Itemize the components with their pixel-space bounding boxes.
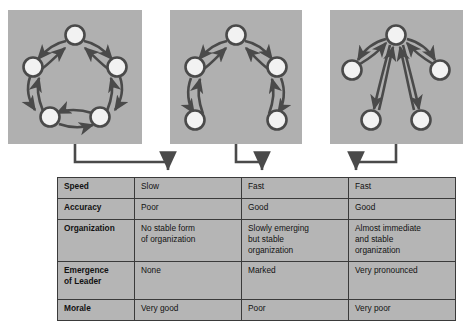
wheel-nodes (343, 26, 450, 130)
wheel-edges (358, 39, 435, 110)
network-comparison-table: Speed Slow Fast Fast Accuracy Poor Good … (57, 177, 456, 321)
circle-network-diagram (8, 10, 142, 144)
cell-text-line: of organization (141, 234, 235, 245)
row-header-speed: Speed (58, 178, 135, 199)
cell-organization-wheel: Almost immediate and stable organization (349, 220, 456, 262)
cell-text-line: organization (248, 245, 342, 256)
cell-speed-wheel: Fast (349, 178, 456, 199)
table-row: Accuracy Poor Good Good (58, 199, 456, 220)
cell-text-line: Almost immediate (355, 223, 449, 234)
chain-network-panel (170, 10, 302, 144)
connector-chain (236, 144, 262, 170)
row-header-morale: Morale (58, 300, 135, 321)
cell-accuracy-wheel: Good (349, 199, 456, 220)
row-header-line: Emergence (64, 265, 128, 276)
chain-edges (188, 41, 284, 114)
cell-morale-chain: Poor (242, 300, 349, 321)
cell-morale-wheel: Very poor (349, 300, 456, 321)
table-row: Morale Very good Poor Very poor (58, 300, 456, 321)
table-row: Organization No stable form of organizat… (58, 220, 456, 262)
cell-emergence-circle: None (135, 262, 242, 300)
row-header-accuracy: Accuracy (58, 199, 135, 220)
cell-morale-circle: Very good (135, 300, 242, 321)
cell-accuracy-circle: Poor (135, 199, 242, 220)
cell-accuracy-chain: Good (242, 199, 349, 220)
wheel-hub-node (387, 26, 406, 45)
circle-network-panel (8, 10, 142, 144)
table-row: Emergence of Leader None Marked Very pro… (58, 262, 456, 300)
cell-text-line: and stable (355, 234, 449, 245)
cell-text-line: Slowly emerging (248, 223, 342, 234)
cell-text-line: but stable (248, 234, 342, 245)
cell-text-line: organization (355, 245, 449, 256)
cell-organization-circle: No stable form of organization (135, 220, 242, 262)
cell-emergence-chain: Marked (242, 262, 349, 300)
row-header-emergence-of-leader: Emergence of Leader (58, 262, 135, 300)
panel-to-table-connectors (0, 140, 472, 182)
wheel-network-diagram (330, 10, 463, 144)
wheel-network-panel (330, 10, 463, 144)
cell-speed-chain: Fast (242, 178, 349, 199)
row-header-organization: Organization (58, 220, 135, 262)
cell-emergence-wheel: Very pronounced (349, 262, 456, 300)
connector-circle (75, 144, 168, 170)
row-header-line: of Leader (64, 276, 128, 287)
connector-wheel (356, 144, 396, 170)
circle-nodes (24, 26, 127, 127)
cell-text-line: No stable form (141, 223, 235, 234)
cell-organization-chain: Slowly emerging but stable organization (242, 220, 349, 262)
table-row: Speed Slow Fast Fast (58, 178, 456, 199)
chain-network-diagram (170, 10, 302, 144)
chain-nodes (186, 26, 287, 130)
cell-speed-circle: Slow (135, 178, 242, 199)
